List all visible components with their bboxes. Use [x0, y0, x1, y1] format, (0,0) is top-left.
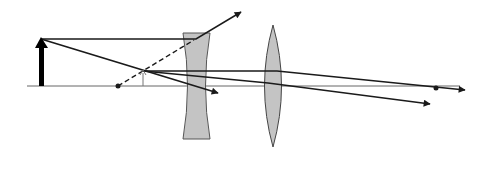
- lens-diagram: [0, 0, 498, 170]
- focal-point-right: [434, 86, 439, 91]
- converging-lens: [265, 25, 282, 147]
- focal-point-left: [116, 84, 121, 89]
- image-oblique-ray: [143, 71, 430, 104]
- virtual-ray-extension: [118, 40, 194, 86]
- parallel-ray: [41, 12, 241, 39]
- object-arrow-shaft: [39, 46, 44, 86]
